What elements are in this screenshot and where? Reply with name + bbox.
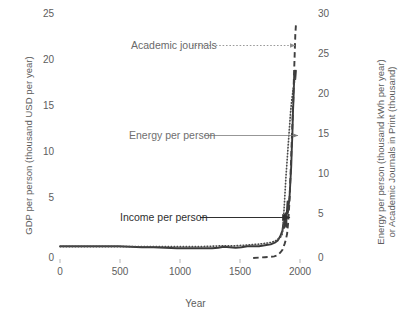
annotation-academic-journals: Academic journals xyxy=(131,39,217,51)
y-axis-right-title-line2: or Academic Journals in Print (thousand) xyxy=(386,66,398,237)
y-right-tick-5: 5 xyxy=(318,208,342,219)
y-right-tick-30: 30 xyxy=(318,8,342,19)
x-tick-1000: 1000 xyxy=(160,266,200,277)
y-right-tick-25: 25 xyxy=(318,48,342,59)
y-left-tick-20: 20 xyxy=(32,54,54,65)
annotation-income-per-person: Income per person xyxy=(120,211,208,223)
y-right-tick-10: 10 xyxy=(318,168,342,179)
series-academic-journals xyxy=(253,25,296,258)
y-left-tick-15: 15 xyxy=(32,100,54,111)
x-tick-500: 500 xyxy=(100,266,140,277)
y-left-tick-25: 25 xyxy=(32,8,54,19)
y-axis-right-title: Energy per person (thousand kWh per year… xyxy=(374,42,398,262)
y-left-tick-5: 5 xyxy=(32,192,54,203)
x-tick-1500: 1500 xyxy=(220,266,260,277)
y-axis-left-title: GDP per person (thousand USD per year) xyxy=(23,36,34,256)
x-axis-title: Year xyxy=(0,298,391,309)
y-left-tick-0: 0 xyxy=(32,252,54,263)
y-axis-right-title-line1: Energy per person (thousand kWh per year… xyxy=(375,59,387,244)
y-right-tick-15: 15 xyxy=(318,128,342,139)
y-right-tick-20: 20 xyxy=(318,88,342,99)
y-left-tick-10: 10 xyxy=(32,146,54,157)
y-right-tick-0: 0 xyxy=(318,252,342,263)
x-axis-ticks xyxy=(60,259,300,263)
x-tick-2000: 2000 xyxy=(280,266,320,277)
x-tick-0: 0 xyxy=(40,266,80,277)
annotation-energy-per-person: Energy per person xyxy=(129,129,215,141)
